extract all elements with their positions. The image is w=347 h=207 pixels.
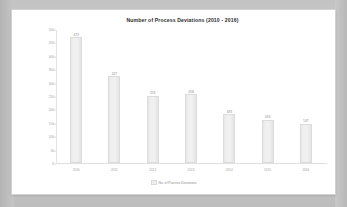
bar-value-label: 473 <box>73 33 79 37</box>
x-axis-tick-label: 2016 <box>287 168 325 172</box>
bar-rect[interactable]: 258 <box>185 94 197 163</box>
bar-item[interactable]: 473 <box>57 30 95 163</box>
bar-rect[interactable]: 147 <box>300 124 312 163</box>
x-axis-tick-label: 2015 <box>248 168 286 172</box>
bar-rect[interactable]: 183 <box>223 114 235 163</box>
plot-area: 050100150200250300350400450500 473327253… <box>34 30 327 164</box>
x-axis-tick-label: 2010 <box>57 168 95 172</box>
bar-rect[interactable]: 253 <box>147 96 159 163</box>
bar-value-label: 183 <box>227 110 233 114</box>
chart-title: Number of Process Deviations (2010 - 201… <box>12 17 335 23</box>
bar-item[interactable]: 183 <box>210 30 248 163</box>
x-axis-tick-label: 2012 <box>134 168 172 172</box>
bar-item[interactable]: 327 <box>95 30 133 163</box>
bar-item[interactable]: 258 <box>172 30 210 163</box>
bar-item[interactable]: 147 <box>287 30 325 163</box>
bar-group: 473327253258183163147 <box>57 30 325 163</box>
bar-value-label: 253 <box>150 91 156 95</box>
x-axis-tick-label: 2013 <box>172 168 210 172</box>
legend-label: No. of Process Deviations <box>159 181 197 185</box>
legend-swatch-icon <box>151 180 157 185</box>
bar-rect[interactable]: 473 <box>70 37 82 163</box>
bar-item[interactable]: 253 <box>134 30 172 163</box>
bar-value-label: 258 <box>188 90 194 94</box>
bar-rect[interactable]: 163 <box>262 120 274 163</box>
y-axis: 050100150200250300350400450500 <box>34 30 56 164</box>
bar-value-label: 327 <box>112 72 118 76</box>
bar-rect[interactable]: 327 <box>108 76 120 163</box>
x-axis-line <box>56 163 327 164</box>
x-axis-labels: 2010201120122013201420152016 <box>57 168 325 172</box>
x-axis-tick-label: 2014 <box>210 168 248 172</box>
chart-panel: Number of Process Deviations (2010 - 201… <box>11 9 336 195</box>
chart-legend: No. of Process Deviations <box>12 180 335 185</box>
x-axis-tick-label: 2011 <box>95 168 133 172</box>
bar-value-label: 163 <box>265 115 271 119</box>
bar-item[interactable]: 163 <box>248 30 286 163</box>
bar-value-label: 147 <box>303 119 309 123</box>
